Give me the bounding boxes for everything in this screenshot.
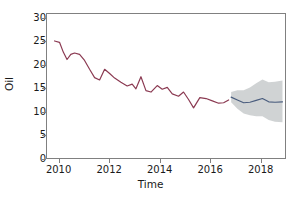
x-axis-title: Time [0, 178, 301, 190]
x-tick-mark [261, 159, 262, 163]
y-axis-title: Oil [3, 61, 15, 107]
x-tick-mark [210, 159, 211, 163]
x-tick-label: 2014 [143, 165, 177, 175]
x-tick-label: 2010 [42, 165, 76, 175]
plot-svg [47, 14, 285, 158]
x-tick-mark [59, 159, 60, 163]
oil-forecast-chart: 051015202530 20102012201420162018 Time O… [0, 0, 301, 202]
x-tick-label: 2016 [193, 165, 227, 175]
x-tick-label: 2018 [244, 165, 278, 175]
x-tick-label: 2012 [92, 165, 126, 175]
historical-oil-line [55, 41, 229, 108]
x-tick-mark [160, 159, 161, 163]
plot-area [46, 13, 286, 159]
x-tick-mark [109, 159, 110, 163]
